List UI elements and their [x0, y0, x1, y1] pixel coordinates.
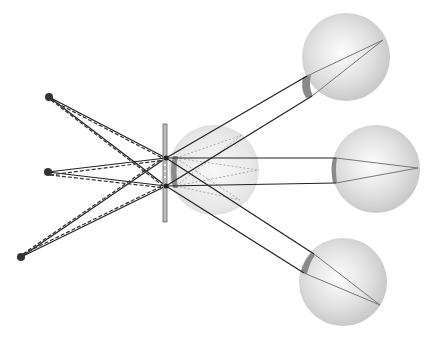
center-eye: [169, 125, 259, 215]
input-rays-solid: [21, 97, 166, 257]
pinhole-lower: [164, 184, 169, 189]
center-eyeball-shape: [169, 125, 259, 215]
source-point-middle: [44, 168, 52, 176]
pinhole-upper: [164, 156, 169, 161]
optics-diagram: [0, 0, 434, 345]
source-point-top: [45, 93, 53, 101]
diagram-canvas: [0, 0, 434, 345]
eyeball-shape: [299, 238, 387, 326]
eyeball-shape: [332, 125, 420, 213]
eye-middle: [332, 125, 421, 213]
screen-bar: [163, 124, 167, 222]
eye-bottom: [299, 238, 387, 326]
eye-top: [302, 13, 390, 101]
source-point-bottom: [17, 253, 25, 261]
